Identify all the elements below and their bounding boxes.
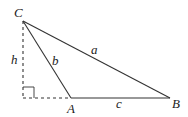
side-label-c: c <box>116 96 122 111</box>
right-angle-marker <box>23 87 34 98</box>
side-a-line <box>23 21 170 98</box>
vertex-label-b: B <box>172 96 180 111</box>
altitude-label-h: h <box>11 52 18 67</box>
triangle-diagram: C h b a A c B <box>0 0 188 117</box>
vertex-label-a: A <box>66 101 75 116</box>
side-b-line <box>23 21 71 98</box>
vertex-label-c: C <box>14 5 23 20</box>
side-label-a: a <box>91 42 98 57</box>
side-label-b: b <box>52 53 59 68</box>
